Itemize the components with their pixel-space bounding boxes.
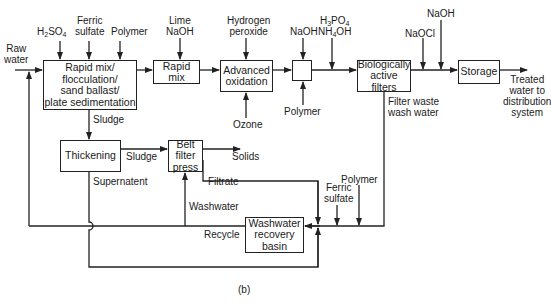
ferric-sulfate-top-label: Ferricsulfate: [75, 15, 104, 37]
rapid-mix-box: Rapid mix: [153, 60, 200, 84]
box-line: Belt filter: [169, 139, 202, 162]
figure-caption: (b): [238, 284, 250, 295]
h3po4-nh4oh-label: H3PO4 NH4OH: [318, 15, 351, 37]
lime-naoh-label: LimeNaOH: [166, 15, 194, 37]
raw-water-label: Rawwater: [4, 43, 28, 65]
box-line: Storage: [461, 66, 498, 78]
box-line: Thickening: [65, 150, 116, 162]
box-line: press: [169, 162, 202, 174]
sludge-label-1: Sludge: [93, 114, 124, 125]
box-line: plate sedimentation: [44, 97, 135, 109]
filtrate-label: Filtrate: [208, 176, 239, 187]
polymer-top-label: Polymer: [111, 26, 148, 37]
h2so4-label: H2SO4: [37, 26, 67, 37]
belt-filter-press-box: Belt filter press: [168, 140, 203, 172]
naocl-label: NaOCl: [405, 28, 435, 39]
naoh-label-2: NaOH: [427, 8, 455, 19]
hydrogen-peroxide-label: Hydrogenperoxide: [227, 15, 270, 37]
box-line: sand ballast/: [44, 85, 135, 97]
naoh-label-1: NaOH: [290, 26, 318, 37]
box-line: oxidation: [223, 76, 270, 88]
box-line: Rapid mix: [154, 61, 199, 84]
ozone-label: Ozone: [233, 119, 262, 130]
box-line: basin: [248, 241, 300, 253]
mixer-box: [292, 60, 312, 81]
sludge-label-2: Sludge: [126, 151, 157, 162]
washwater-label: Washwater: [189, 201, 239, 212]
polymer-mid-label: Polymer: [284, 106, 321, 117]
ferric-sulfate-bottom-label: Ferricsulfate: [324, 182, 353, 204]
washwater-recovery-basin-box: Washwater recovery basin: [245, 217, 304, 253]
solids-label: Solids: [232, 151, 259, 162]
box-line: active filters: [358, 70, 411, 93]
advanced-oxidation-box: Advanced oxidation: [220, 60, 273, 92]
thickening-box: Thickening: [60, 140, 121, 172]
rapid-mix-flocculation-box: Rapid mix/ flocculation/ sand ballast/ p…: [43, 60, 137, 110]
box-line: Rapid mix/: [44, 62, 135, 74]
storage-box: Storage: [458, 60, 500, 84]
filter-waste-label: Filter wastewash water: [388, 96, 439, 118]
treated-water-label: Treated water to distribution system: [503, 74, 551, 118]
supernatant-label: Supernatent: [93, 176, 148, 187]
recycle-label: Recycle: [204, 229, 240, 240]
biological-filters-box: Biologically active filters: [357, 60, 411, 92]
